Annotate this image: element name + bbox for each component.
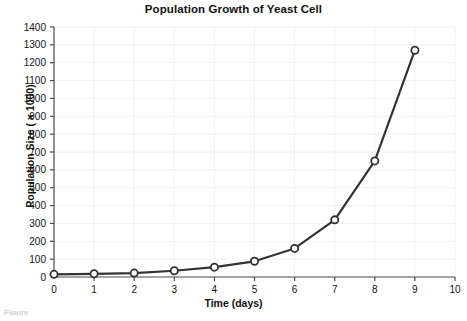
x-tick-label: 4	[212, 284, 218, 295]
series-line-yeast-population	[54, 50, 415, 274]
chart-figure: Population Growth of Yeast Cell Populati…	[0, 0, 467, 321]
y-axis: 0100200300400500600700800900100011001200…	[24, 22, 54, 283]
y-tick-label: 300	[29, 218, 46, 229]
x-tick-label: 10	[449, 284, 461, 295]
x-tick-label: 0	[51, 284, 57, 295]
data-point-marker	[411, 47, 418, 54]
y-tick-label: 1400	[24, 22, 47, 33]
data-point-markers	[50, 47, 418, 278]
data-point-marker	[211, 264, 218, 271]
y-tick-label: 500	[29, 182, 46, 193]
x-tick-label: 3	[172, 284, 178, 295]
data-point-marker	[291, 245, 298, 252]
data-point-marker	[251, 258, 258, 265]
figure-caption-fragment: Figure	[4, 308, 28, 315]
x-tick-label: 2	[131, 284, 137, 295]
x-tick-label: 7	[332, 284, 338, 295]
y-tick-label: 400	[29, 200, 46, 211]
y-tick-label: 900	[29, 111, 46, 122]
data-point-marker	[131, 269, 138, 276]
data-series-line	[54, 50, 415, 274]
x-tick-label: 5	[252, 284, 258, 295]
data-point-marker	[50, 271, 57, 278]
x-tick-label: 1	[91, 284, 97, 295]
data-point-marker	[171, 267, 178, 274]
y-tick-label: 1200	[24, 57, 47, 68]
y-tick-label: 600	[29, 164, 46, 175]
x-tick-label: 9	[412, 284, 418, 295]
y-tick-label: 1100	[24, 75, 46, 86]
x-tick-label: 8	[372, 284, 378, 295]
data-point-marker	[91, 270, 98, 277]
y-tick-label: 800	[29, 129, 46, 140]
y-tick-label: 0	[40, 272, 46, 283]
data-point-marker	[371, 157, 378, 164]
y-tick-label: 1300	[24, 39, 47, 50]
x-axis: 012345678910	[51, 277, 461, 295]
x-tick-label: 6	[292, 284, 298, 295]
data-point-marker	[331, 216, 338, 223]
y-tick-label: 1000	[24, 93, 47, 104]
plot-area: 0100200300400500600700800900100011001200…	[0, 0, 467, 321]
y-tick-label: 700	[29, 147, 46, 158]
y-tick-label: 200	[29, 236, 46, 247]
y-tick-label: 100	[29, 254, 46, 265]
